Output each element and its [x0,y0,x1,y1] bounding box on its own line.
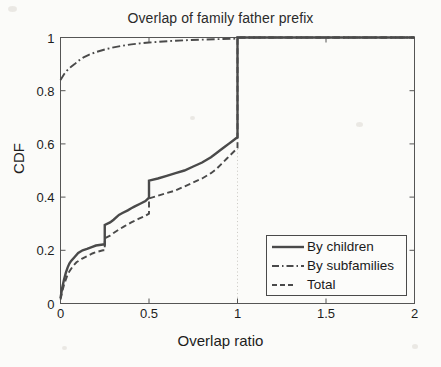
legend-label-by-subfamilies: By subfamilies [307,258,394,273]
legend-item-by-children: By children [271,237,374,256]
legend-item-total: Total [271,275,336,294]
y-tick-label-4: 0.8 [13,83,55,98]
x-tick-label-2: 1 [234,306,241,321]
x-tick-label-3: 1.5 [317,306,335,321]
legend-label-by-children: By children [307,239,374,254]
chart-legend: By children By subfamilies Total [266,235,407,296]
x-tick-label-1: 0.5 [140,306,158,321]
legend-label-total: Total [307,277,336,292]
y-tick-label-3: 0.6 [13,136,55,151]
x-tick-label-0: 0 [57,306,64,321]
legend-sample-solid [271,241,305,253]
y-tick-label-1: 0.2 [13,243,55,258]
y-tick-label-0: 0 [13,296,55,311]
y-tick-label-5: 1 [13,30,55,45]
legend-sample-dash-dot [271,260,305,272]
legend-sample-dashed [271,279,305,291]
x-tick-label-4: 2 [411,306,418,321]
y-tick-label-2: 0.4 [13,190,55,205]
legend-item-by-subfamilies: By subfamilies [271,256,394,275]
figure-page: Overlap of family father prefix Overlap … [0,0,441,367]
chart-canvas [0,0,441,367]
